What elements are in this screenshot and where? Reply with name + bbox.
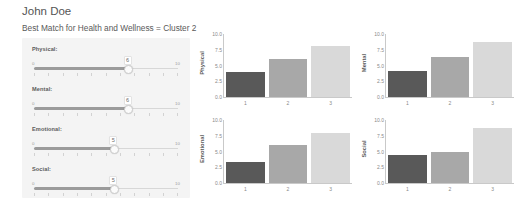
slider-control[interactable]: 0105: [32, 135, 180, 155]
x-axis-tick: 3: [329, 186, 332, 192]
bar: [311, 46, 349, 97]
charts-grid: Physical10.07.55.02.50.0123Mental10.07.5…: [196, 32, 516, 200]
x-axis-tick: 1: [244, 186, 247, 192]
y-axis-tick: 10.0: [374, 117, 384, 123]
slider-min-label: 0: [32, 61, 34, 66]
slider-tick: [34, 153, 35, 156]
slider-min-label: 0: [32, 181, 34, 186]
x-axis-tick: 3: [491, 100, 494, 106]
slider-tick: [48, 193, 49, 196]
slider-value-bubble: 6: [124, 56, 132, 65]
bar: [226, 162, 264, 183]
slider-tick: [134, 193, 135, 196]
slider-tick: [163, 153, 164, 156]
x-axis-tick: 2: [449, 100, 452, 106]
slider-group-emotional: Emotional:0105: [32, 126, 180, 155]
slider-track[interactable]: 6: [34, 107, 178, 110]
bar: [388, 155, 426, 183]
y-axis-tick: 2.5: [215, 164, 222, 170]
bar-series: 123: [386, 120, 514, 183]
bar-series: 123: [386, 34, 514, 97]
slider-tick: [63, 113, 64, 116]
app-root: John Doe Best Match for Health and Welln…: [0, 0, 525, 205]
x-axis-tick: 2: [449, 186, 452, 192]
plot-area: 10.07.55.02.50.0123: [223, 120, 352, 184]
x-axis-tick: 1: [406, 100, 409, 106]
y-axis-tick: 2.5: [377, 78, 384, 84]
chart-y-axis-label: Emotional: [197, 118, 207, 180]
slider-tick: [177, 153, 178, 156]
slider-tick-marks: [34, 153, 178, 158]
slider-value-bubble: 5: [109, 176, 117, 185]
bar-slot: 3: [473, 120, 511, 183]
slider-fill: [34, 187, 113, 190]
bar-slot: 3: [311, 120, 349, 183]
slider-tick: [134, 113, 135, 116]
slider-track[interactable]: 5: [34, 187, 178, 190]
y-axis-tick: 0.0: [215, 180, 222, 186]
plot-area: 10.07.55.02.50.0123: [385, 34, 514, 98]
slider-fill: [34, 147, 113, 150]
bar: [473, 42, 511, 97]
bar: [431, 152, 469, 184]
slider-tick: [149, 193, 150, 196]
slider-tick: [91, 73, 92, 76]
slider-group-physical: Physical:0106: [32, 46, 180, 75]
bar: [226, 72, 264, 97]
slider-tick: [91, 153, 92, 156]
y-axis-tick: 5.0: [215, 149, 222, 155]
bar-series: 123: [224, 120, 352, 183]
bar: [269, 59, 307, 97]
slider-value-bubble: 6: [124, 96, 132, 105]
slider-tick: [34, 73, 35, 76]
slider-tick: [48, 113, 49, 116]
chart-social: Social10.07.55.02.50.0123: [358, 118, 516, 200]
cluster-match-text: Best Match for Health and Wellness = Clu…: [22, 23, 196, 34]
bar-slot: 2: [431, 120, 469, 183]
slider-tick: [120, 73, 121, 76]
slider-min-label: 0: [32, 101, 34, 106]
y-axis-tick: 10.0: [212, 31, 222, 37]
slider-min-label: 0: [32, 141, 34, 146]
bar-slot: 1: [226, 34, 264, 97]
y-axis-tick: 2.5: [215, 78, 222, 84]
y-axis-tick: 0.0: [377, 180, 384, 186]
slider-tick: [120, 193, 121, 196]
slider-max-label: 10: [175, 61, 180, 66]
y-axis-tick: 7.5: [215, 47, 222, 53]
slider-tick: [34, 113, 35, 116]
chart-y-axis-label: Physical: [197, 32, 207, 94]
bar-slot: 1: [226, 120, 264, 183]
slider-tick-marks: [34, 113, 178, 118]
bar: [311, 133, 349, 183]
slider-tick: [63, 153, 64, 156]
y-axis-tick: 10.0: [374, 31, 384, 37]
y-axis-tick: 7.5: [215, 133, 222, 139]
slider-label: Mental:: [32, 86, 180, 93]
slider-tick: [106, 113, 107, 116]
slider-track[interactable]: 6: [34, 67, 178, 70]
bar-slot: 3: [473, 34, 511, 97]
slider-label: Physical:: [32, 46, 180, 53]
slider-tick: [163, 113, 164, 116]
y-axis-tick: 7.5: [377, 47, 384, 53]
slider-tick: [77, 153, 78, 156]
slider-max-label: 10: [175, 101, 180, 106]
slider-tick: [63, 193, 64, 196]
chart-emotional: Emotional10.07.55.02.50.0123: [196, 118, 354, 200]
slider-max-label: 10: [175, 181, 180, 186]
slider-tick: [48, 153, 49, 156]
x-axis-tick: 1: [244, 100, 247, 106]
bar-slot: 2: [269, 120, 307, 183]
slider-max-label: 10: [175, 141, 180, 146]
slider-control[interactable]: 0106: [32, 55, 180, 75]
bar: [269, 145, 307, 183]
slider-control[interactable]: 0105: [32, 175, 180, 195]
slider-track[interactable]: 5: [34, 147, 178, 150]
bar-slot: 1: [388, 34, 426, 97]
bar-series: 123: [224, 34, 352, 97]
slider-tick: [48, 73, 49, 76]
slider-tick: [106, 73, 107, 76]
slider-control[interactable]: 0106: [32, 95, 180, 115]
slider-group-mental: Mental:0106: [32, 86, 180, 115]
